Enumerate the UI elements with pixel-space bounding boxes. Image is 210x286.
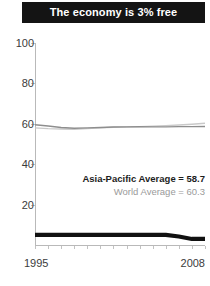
annotation-world-average: World Average = 60.3: [45, 185, 205, 198]
chart-figure: The economy is 3% free 10080604020 1995 …: [0, 0, 210, 286]
chart-series-layer: [0, 0, 210, 286]
series-line: [35, 235, 205, 239]
chart-annotations: Asia-Pacific Average = 58.7 World Averag…: [45, 172, 205, 198]
annotation-asia-pacific-average: Asia-Pacific Average = 58.7: [45, 172, 205, 185]
